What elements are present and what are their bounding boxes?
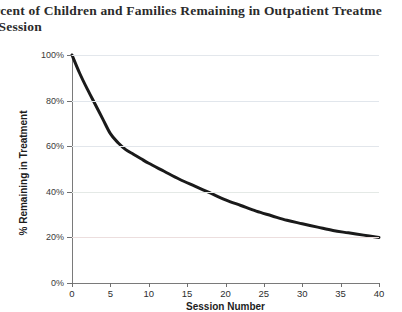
x-axis-title: Session Number [72,301,379,312]
x-tick-label-0: 0 [69,288,74,299]
y-tick-60 [67,146,72,147]
x-tick-label-10: 10 [143,288,154,299]
y-axis-title: % Remaining in Treatment [18,88,29,258]
y-tick-20 [67,237,72,238]
x-tick-20 [226,283,227,287]
y-tick-label-40: 40% [46,187,64,197]
x-tick-40 [379,283,380,287]
x-tick-label-35: 35 [335,288,346,299]
x-tick-15 [187,283,188,287]
x-tick-label-30: 30 [297,288,308,299]
y-tick-label-20: 20% [46,232,64,242]
x-tick-0 [72,283,73,287]
y-tick-100 [67,55,72,56]
y-tick-label-0: 0% [51,278,64,288]
y-tick-label-80: 80% [46,96,64,106]
x-tick-label-15: 15 [182,288,193,299]
series-line-remaining-in-treatment [72,55,379,283]
chart-title-line-1: ercent of Children and Families Remainin… [0,2,402,19]
y-tick-label-60: 60% [46,141,64,151]
chart-title-line-2: y Session [0,18,402,35]
gridline-y-100 [72,55,379,56]
x-tick-10 [149,283,150,287]
gridline-y-20 [72,237,379,238]
y-tick-label-100: 100% [41,50,64,60]
x-tick-25 [264,283,265,287]
x-tick-5 [110,283,111,287]
x-tick-label-25: 25 [259,288,270,299]
gridline-y-40 [72,192,379,193]
x-tick-30 [302,283,303,287]
plot-area: 0%20%40%60%80%100%0510152025303540 [72,55,379,283]
x-tick-label-40: 40 [374,288,385,299]
gridline-y-60 [72,146,379,147]
chart-container: 0%20%40%60%80%100%0510152025303540 Sessi… [0,36,402,309]
x-tick-35 [341,283,342,287]
y-tick-40 [67,192,72,193]
x-tick-label-20: 20 [220,288,231,299]
chart-title: ercent of Children and Families Remainin… [0,2,402,35]
y-tick-80 [67,101,72,102]
gridline-y-80 [72,101,379,102]
x-tick-label-5: 5 [108,288,113,299]
